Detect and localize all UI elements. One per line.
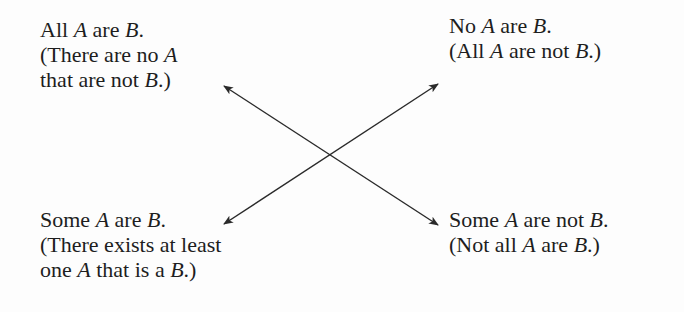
- arrow-all-to-some-not: [224, 86, 438, 225]
- square-of-opposition-diagram: All A are B.(There are no Athat are not …: [0, 0, 684, 312]
- arrow-no-to-some: [224, 84, 438, 224]
- negation-arrows: [0, 0, 684, 312]
